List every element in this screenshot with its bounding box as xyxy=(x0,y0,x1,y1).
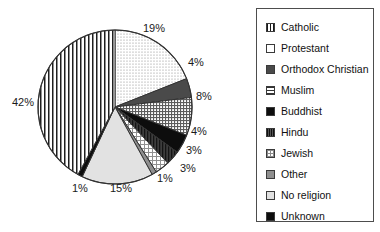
legend-item-orthodox-christian[interactable]: Orthodox Christian xyxy=(266,59,373,79)
legend-swatch-icon xyxy=(266,128,275,137)
pie-slice-percentage-label: 8% xyxy=(196,91,212,102)
legend-item-label: Other xyxy=(281,169,307,180)
legend-item-buddhist[interactable]: Buddhist xyxy=(266,101,373,121)
pie-chart-svg xyxy=(0,0,250,232)
legend-swatch-icon xyxy=(266,170,275,179)
legend-item-other[interactable]: Other xyxy=(266,164,373,184)
legend-item-unknown[interactable]: Unknown xyxy=(266,206,373,226)
legend-item-muslim[interactable]: Muslim xyxy=(266,80,373,100)
chart-legend: CatholicProtestantOrthodox ChristianMusl… xyxy=(256,8,374,222)
pie-slice-percentage-label: 3% xyxy=(186,145,202,156)
pie-slice-percentage-label: 4% xyxy=(188,57,204,68)
legend-item-hindu[interactable]: Hindu xyxy=(266,122,373,142)
legend-item-label: Protestant xyxy=(281,43,329,54)
pie-slice-percentage-label: 19% xyxy=(143,23,165,34)
legend-swatch-icon xyxy=(266,212,275,221)
pie-slices xyxy=(38,30,192,184)
legend-swatch-icon xyxy=(266,23,275,32)
pie-chart-plot-area: 19%4%8%4%3%3%1%15%1%42% xyxy=(0,0,250,232)
pie-slice-percentage-label: 15% xyxy=(110,183,132,194)
legend-item-label: Unknown xyxy=(281,211,325,222)
legend-item-protestant[interactable]: Protestant xyxy=(266,38,373,58)
legend-item-jewish[interactable]: Jewish xyxy=(266,143,373,163)
legend-swatch-icon xyxy=(266,65,275,74)
legend-item-label: Catholic xyxy=(281,22,319,33)
pie-slice-percentage-label: 1% xyxy=(72,183,88,194)
pie-slice-percentage-label: 4% xyxy=(191,126,207,137)
legend-swatch-icon xyxy=(266,107,275,116)
legend-swatch-icon xyxy=(266,149,275,158)
legend-item-no-religion[interactable]: No religion xyxy=(266,185,373,205)
legend-swatch-icon xyxy=(266,86,275,95)
pie-chart-figure: 19%4%8%4%3%3%1%15%1%42% CatholicProtesta… xyxy=(0,0,380,232)
pie-slice-percentage-label: 3% xyxy=(180,163,196,174)
legend-item-label: Hindu xyxy=(281,127,308,138)
legend-item-label: Jewish xyxy=(281,148,313,159)
legend-item-label: Muslim xyxy=(281,85,314,96)
legend-item-label: Buddhist xyxy=(281,106,322,117)
pie-slice-percentage-label: 42% xyxy=(12,97,34,108)
legend-item-catholic[interactable]: Catholic xyxy=(266,17,373,37)
legend-swatch-icon xyxy=(266,44,275,53)
legend-swatch-icon xyxy=(266,191,275,200)
legend-item-label: No religion xyxy=(281,190,331,201)
pie-slice-percentage-label: 1% xyxy=(157,173,173,184)
legend-item-label: Orthodox Christian xyxy=(281,64,369,75)
